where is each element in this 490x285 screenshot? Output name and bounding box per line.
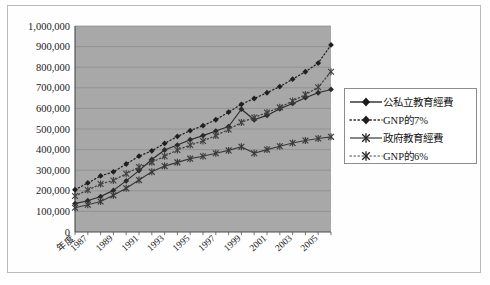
x-tick-label: 2001 xyxy=(248,233,269,253)
x-tick-labels: 年度19871989199119931995199719992001200320… xyxy=(54,232,320,254)
legend-item-0: 公私立教育經費 xyxy=(349,93,473,110)
chart-screenshot: 1,000,000900,000800,000700,000600,000500… xyxy=(0,0,490,285)
y-tick-label: 500,000 xyxy=(36,124,70,135)
x-tick-marks xyxy=(75,232,331,235)
chart-canvas: 1,000,000900,000800,000700,000600,000500… xyxy=(0,0,490,285)
legend-symbol-solid-diamond-icon xyxy=(349,95,383,109)
legend-label-1: GNP的7% xyxy=(383,112,428,127)
legend-item-3: GNP的6% xyxy=(349,147,473,164)
y-tick-label: 1,000,000 xyxy=(28,21,70,32)
y-tick-labels: 1,000,000900,000800,000700,000600,000500… xyxy=(28,21,70,238)
y-tick-label: 400,000 xyxy=(36,144,70,155)
x-tick-label: 1995 xyxy=(171,233,192,253)
x-tick-label: 1993 xyxy=(145,233,166,253)
x-tick-label: 1989 xyxy=(94,233,115,253)
x-tick-label: 1997 xyxy=(196,233,217,253)
y-tick-label: 300,000 xyxy=(36,165,70,176)
legend-symbol-solid-asterisk-icon xyxy=(349,131,383,145)
x-tick-label: 1991 xyxy=(120,233,141,253)
legend-label-0: 公私立教育經費 xyxy=(383,94,453,109)
legend-symbol-dotted-asterisk-icon xyxy=(349,149,383,163)
y-tick-label: 600,000 xyxy=(36,103,70,114)
legend-item-1: GNP的7% xyxy=(349,111,473,128)
chart-legend: 公私立教育經費 GNP的7% xyxy=(344,88,477,164)
x-tick-label: 1999 xyxy=(222,233,243,253)
x-tick-label: 2003 xyxy=(273,233,294,253)
y-tick-label: 800,000 xyxy=(36,62,70,73)
y-tick-label: 700,000 xyxy=(36,82,70,93)
legend-label-3: GNP的6% xyxy=(383,148,428,163)
y-tick-label: 100,000 xyxy=(36,206,70,217)
y-tick-label: 900,000 xyxy=(36,41,70,52)
y-tick-label: 200,000 xyxy=(36,185,70,196)
legend-label-2: 政府教育經費 xyxy=(383,130,443,145)
x-tick-label: 2005 xyxy=(299,233,320,253)
legend-item-2: 政府教育經費 xyxy=(349,129,473,146)
legend-symbol-dotted-diamond-icon xyxy=(349,113,383,127)
